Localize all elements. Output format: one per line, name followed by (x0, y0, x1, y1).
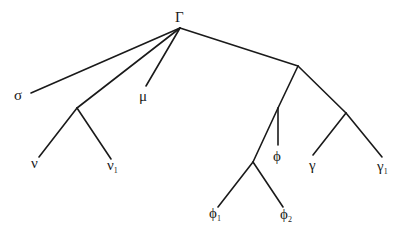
node-label-gamma: γ (308, 157, 316, 173)
node-label-gamma1: γ1 (376, 158, 388, 176)
node-label-phi1: ϕ1 (209, 205, 221, 223)
node-subscript-phi2: 2 (288, 215, 292, 224)
node-label-phi: ϕ (273, 148, 281, 164)
node-label-nu1: ν1 (107, 157, 118, 175)
node-subscript-phi1: 1 (217, 214, 221, 223)
edge-root-sigma (31, 28, 180, 93)
edge-phi_parent-phi2 (253, 162, 283, 207)
node-label-sigma: σ (14, 87, 22, 103)
edge-root-right (180, 28, 298, 66)
edge-root-nu_parent (77, 28, 180, 108)
node-label-phi2: ϕ2 (280, 206, 292, 224)
node-label-nu: ν (31, 155, 38, 171)
edge-nu_parent-nu1 (77, 108, 111, 159)
tree-edges (31, 28, 382, 207)
node-label-mu: μ (139, 88, 147, 104)
edge-phi_parent-phi1 (218, 162, 253, 207)
edge-right-phi_branch (278, 66, 298, 108)
edge-gamma_parent-gamma1 (346, 113, 382, 157)
node-subscript-nu1: 1 (114, 166, 118, 175)
edge-root-mu (146, 28, 180, 86)
edge-nu_parent-nu (39, 108, 77, 157)
tree-diagram: Γσμνν1ϕϕ1ϕ2γγ1 (0, 0, 407, 236)
edge-right-gamma_parent (298, 66, 346, 113)
node-label-root: Γ (175, 9, 184, 25)
node-subscript-gamma1: 1 (384, 167, 388, 176)
edge-gamma_parent-gamma (313, 113, 346, 155)
